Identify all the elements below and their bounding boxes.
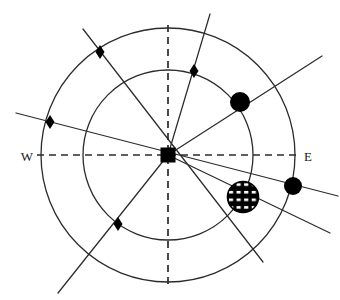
point-ne-large[interactable] <box>230 92 250 112</box>
west-label: W <box>21 149 34 164</box>
point-se-checkered[interactable] <box>227 181 259 213</box>
origin-marker[interactable] <box>161 148 176 163</box>
ray-group <box>16 14 338 293</box>
point-sw-small[interactable] <box>114 217 123 231</box>
polar-diagram-svg: W E <box>0 0 340 300</box>
polar-diagram-figure: W E <box>0 0 340 300</box>
ray-nne <box>168 14 210 155</box>
ray-ssw <box>58 155 168 293</box>
east-label: E <box>304 149 312 164</box>
data-point-group <box>46 45 303 231</box>
point-e-large[interactable] <box>284 177 302 195</box>
point-n-small[interactable] <box>190 64 199 78</box>
